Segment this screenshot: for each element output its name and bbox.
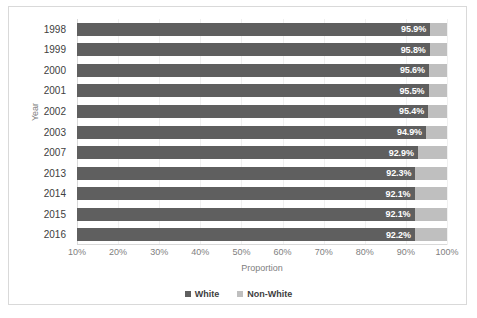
bar-row: 95.8% [77, 40, 447, 61]
y-axis-tick-label: 2000 [33, 60, 69, 81]
bar-row: 92.3% [77, 163, 447, 184]
x-axis-tick-label: 70% [315, 247, 333, 257]
x-axis-title: Proportion [77, 263, 447, 273]
x-axis-tick-label: 80% [356, 247, 374, 257]
x-axis-tick-label: 30% [150, 247, 168, 257]
bar-data-label: 95.6% [400, 65, 425, 75]
bar-segment-white[interactable]: 92.1% [77, 208, 415, 221]
bar-data-label: 95.4% [399, 106, 424, 116]
bar-track: 95.9% [77, 23, 447, 36]
bar-segment-non-white[interactable] [415, 228, 447, 241]
y-axis-tick-label: 2015 [33, 204, 69, 225]
bar-data-label: 92.1% [385, 189, 410, 199]
bar-data-label: 92.9% [389, 148, 414, 158]
bar-segment-white[interactable]: 95.8% [77, 43, 430, 56]
y-axis-tick-label: 2003 [33, 122, 69, 143]
bar-segment-non-white[interactable] [429, 64, 447, 77]
bar-row: 92.2% [77, 224, 447, 245]
bar-track: 95.6% [77, 64, 447, 77]
y-axis-tick-labels: 1998199920002001200220032007201320142015… [33, 19, 69, 245]
bar-segment-white[interactable]: 95.6% [77, 64, 429, 77]
bar-track: 92.9% [77, 146, 447, 159]
bar-row: 95.5% [77, 81, 447, 102]
bar-segment-white[interactable]: 95.9% [77, 23, 430, 36]
bar-row: 95.4% [77, 101, 447, 122]
bar-data-label: 92.1% [385, 209, 410, 219]
bar-row: 92.1% [77, 204, 447, 225]
bar-segment-white[interactable]: 92.9% [77, 146, 418, 159]
x-axis-tick-label: 100% [435, 247, 458, 257]
bar-track: 95.4% [77, 105, 447, 118]
bar-segment-non-white[interactable] [415, 187, 447, 200]
legend-label: White [195, 289, 220, 299]
bar-segment-non-white[interactable] [428, 105, 447, 118]
bar-track: 95.8% [77, 43, 447, 56]
y-axis-tick-label: 2014 [33, 183, 69, 204]
bar-segment-non-white[interactable] [418, 146, 447, 159]
x-axis-tick-label: 10% [68, 247, 86, 257]
bar-row: 95.9% [77, 19, 447, 40]
y-axis-tick-label: 1998 [33, 19, 69, 40]
bar-segment-non-white[interactable] [415, 167, 447, 180]
bar-segment-white[interactable]: 92.3% [77, 167, 415, 180]
bar-track: 92.3% [77, 167, 447, 180]
legend-item[interactable]: White [185, 289, 220, 299]
bar-segment-white[interactable]: 94.9% [77, 126, 426, 139]
y-axis-tick-label: 2013 [33, 163, 69, 184]
bar-segment-non-white[interactable] [429, 84, 448, 97]
legend-swatch-icon [237, 291, 243, 297]
bar-track: 92.1% [77, 187, 447, 200]
x-axis-tick-label: 60% [274, 247, 292, 257]
bar-segment-non-white[interactable] [415, 208, 447, 221]
bar-series-group: 95.9%95.8%95.6%95.5%95.4%94.9%92.9%92.3%… [77, 19, 447, 245]
legend-label: Non-White [247, 289, 292, 299]
bar-track: 92.2% [77, 228, 447, 241]
y-axis-tick-label: 2002 [33, 101, 69, 122]
plot-area: 95.9%95.8%95.6%95.5%95.4%94.9%92.9%92.3%… [77, 19, 447, 245]
legend-swatch-icon [185, 291, 191, 297]
bar-segment-non-white[interactable] [426, 126, 447, 139]
bar-row: 92.9% [77, 142, 447, 163]
bar-data-label: 95.5% [399, 86, 424, 96]
x-axis-tick-label: 40% [191, 247, 209, 257]
x-axis-tick-label: 50% [232, 247, 250, 257]
y-axis-tick-label: 2016 [33, 224, 69, 245]
bar-segment-white[interactable]: 92.2% [77, 228, 415, 241]
bar-data-label: 95.9% [401, 24, 426, 34]
bar-row: 94.9% [77, 122, 447, 143]
bar-segment-white[interactable]: 92.1% [77, 187, 415, 200]
bar-track: 94.9% [77, 126, 447, 139]
bar-row: 95.6% [77, 60, 447, 81]
x-axis-tick-labels: 10%20%30%40%50%60%70%80%90%100% [77, 247, 447, 261]
legend-item[interactable]: Non-White [237, 289, 292, 299]
bar-track: 92.1% [77, 208, 447, 221]
x-axis-tick-label: 20% [109, 247, 127, 257]
bar-segment-non-white[interactable] [430, 43, 447, 56]
bar-segment-non-white[interactable] [430, 23, 447, 36]
bar-row: 92.1% [77, 183, 447, 204]
bar-data-label: 92.3% [386, 168, 411, 178]
y-axis-tick-label: 2001 [33, 81, 69, 102]
bar-data-label: 92.2% [386, 230, 411, 240]
y-axis-tick-label: 2007 [33, 142, 69, 163]
chart-container: Year 19981999200020012002200320072013201… [8, 6, 467, 305]
chart-legend: WhiteNon-White [9, 289, 468, 299]
bar-data-label: 95.8% [401, 45, 426, 55]
bar-data-label: 94.9% [397, 127, 422, 137]
bar-track: 95.5% [77, 84, 447, 97]
gridline [447, 19, 448, 245]
y-axis-tick-label: 1999 [33, 40, 69, 61]
bar-segment-white[interactable]: 95.5% [77, 84, 429, 97]
x-axis-tick-label: 90% [397, 247, 415, 257]
bar-segment-white[interactable]: 95.4% [77, 105, 428, 118]
